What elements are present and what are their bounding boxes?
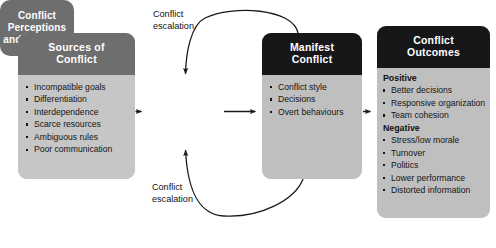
list-item: Politics: [382, 160, 487, 171]
outcomes-group-label-positive: Positive: [383, 73, 487, 85]
sources-of-conflict-header: Sources of Conflict: [18, 33, 135, 75]
sources-of-conflict-box: Sources of Conflict Incompatible goals D…: [18, 33, 135, 179]
conflict-outcomes-body: Positive Better decisions Responsive org…: [377, 68, 490, 218]
conflict-outcomes-box: Conflict Outcomes Positive Better decisi…: [377, 26, 490, 218]
list-item: Interdependence: [25, 107, 130, 118]
escalation-caption-bottom: Conflict escalation: [152, 182, 193, 205]
list-item: Overt behaviours: [269, 107, 357, 118]
conflict-process-diagram: Sources of Conflict Incompatible goals D…: [0, 0, 496, 248]
list-item: Lower performance: [382, 173, 487, 184]
outcomes-positive-list: Better decisions Responsive organization…: [382, 85, 487, 121]
escalation-caption-top: Conflict escalation: [153, 9, 194, 32]
list-item: Better decisions: [382, 85, 487, 96]
list-item: Poor communication: [25, 144, 130, 155]
manifest-conflict-box: Manifest Conflict Conflict style Decisio…: [262, 33, 362, 179]
list-item: Differentiation: [25, 94, 130, 105]
manifest-conflict-list: Conflict style Decisions Overt behaviour…: [269, 82, 357, 118]
sources-of-conflict-body: Incompatible goals Differentiation Inter…: [18, 75, 135, 179]
list-item: Turnover: [382, 148, 487, 159]
sources-of-conflict-list: Incompatible goals Differentiation Inter…: [25, 82, 130, 156]
list-item: Stress/low morale: [382, 135, 487, 146]
list-item: Incompatible goals: [25, 82, 130, 93]
list-item: Ambiguous rules: [25, 132, 130, 143]
list-item: Decisions: [269, 94, 357, 105]
list-item: Distorted information: [382, 185, 487, 196]
list-item: Team cohesion: [382, 110, 487, 121]
outcomes-group-label-negative: Negative: [383, 123, 487, 135]
list-item: Scarce resources: [25, 119, 130, 130]
outcomes-negative-list: Stress/low morale Turnover Politics Lowe…: [382, 135, 487, 196]
manifest-conflict-body: Conflict style Decisions Overt behaviour…: [262, 75, 362, 179]
list-item: Responsive organization: [382, 98, 487, 109]
conflict-outcomes-header: Conflict Outcomes: [377, 26, 490, 68]
manifest-conflict-header: Manifest Conflict: [262, 33, 362, 75]
list-item: Conflict style: [269, 82, 357, 93]
